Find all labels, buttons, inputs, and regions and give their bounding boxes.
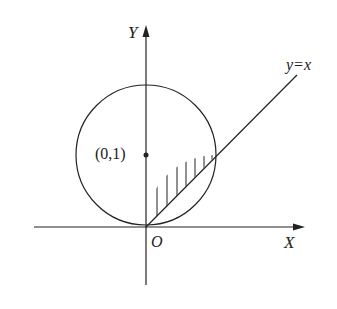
center-point bbox=[144, 153, 149, 158]
line-y-equals-x bbox=[146, 75, 297, 227]
diagram-canvas bbox=[0, 0, 337, 309]
x-axis-label: X bbox=[284, 234, 294, 251]
line-label: y=x bbox=[286, 57, 311, 73]
center-label: (0,1) bbox=[95, 146, 126, 162]
origin-label: O bbox=[151, 234, 163, 250]
y-axis-label: Y bbox=[128, 24, 137, 41]
x-axis-arrow-icon bbox=[293, 224, 305, 231]
y-axis-arrow-icon bbox=[143, 25, 150, 37]
